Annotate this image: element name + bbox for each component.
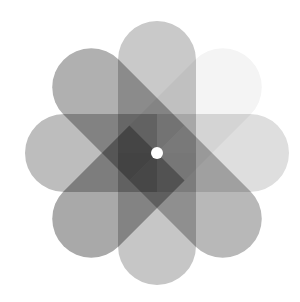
center-hole-icon (151, 147, 163, 159)
flower-icon-canvas: Grayscale pinwheel flower icon (0, 0, 300, 302)
pinwheel-flower-icon (0, 0, 300, 302)
